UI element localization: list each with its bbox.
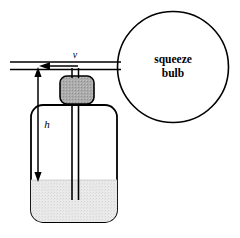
stopper <box>60 76 94 104</box>
velocity-label: v <box>73 49 78 60</box>
diagram-canvas: squeeze bulb v <box>0 0 240 238</box>
liquid-fill <box>31 180 117 222</box>
squeeze-bulb-diagram: squeeze bulb v <box>0 0 240 238</box>
height-label: h <box>44 118 50 130</box>
squeeze-bulb-label-line2: bulb <box>162 67 184 79</box>
flow-arrow-head <box>39 62 50 70</box>
bottle-liquid-group <box>31 180 117 222</box>
squeeze-bulb-label-line1: squeeze <box>154 53 192 66</box>
height-arrow-head-top <box>34 67 41 77</box>
